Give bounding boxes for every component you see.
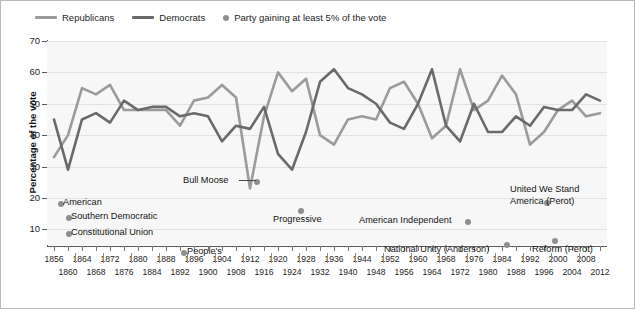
annotation-leader-line-bull-moose [239, 180, 256, 181]
x-label-separator [495, 253, 496, 263]
x-tick-mark-1944 [362, 246, 363, 251]
line-series-republicans [54, 69, 600, 188]
x-tick-mark-1856 [54, 246, 55, 251]
x-tick-mark-1984 [502, 246, 503, 251]
annotation-line: United We Stand [510, 184, 579, 196]
x-tick-mark-1988 [516, 246, 517, 251]
annotation-line: America (Perot) [510, 196, 579, 208]
x-label-separator [439, 253, 440, 263]
x-label-separator [103, 253, 104, 263]
y-tick-label-20: 20 [14, 192, 40, 203]
x-label-separator [299, 253, 300, 263]
x-tick-mark-1940 [348, 246, 349, 251]
annotation-label-american: American [63, 197, 102, 207]
x-tick-mark-1948 [376, 246, 377, 251]
x-tick-mark-1868 [96, 246, 97, 251]
x-tick-mark-2012 [600, 246, 601, 251]
x-tick-mark-1884 [152, 246, 153, 251]
annotation-label-constitutional-union: Constitutional Union [71, 227, 153, 237]
x-label-separator [75, 253, 76, 263]
annotation-label-bull-moose: Bull Moose [183, 175, 228, 185]
annotation-label-american-independent: American Independent [359, 215, 451, 225]
x-tick-mark-1908 [236, 246, 237, 251]
annotation-label-reform-perot: Reform (Perot) [532, 244, 593, 254]
legend-item-republicans: Republicans [35, 12, 114, 23]
x-tick-mark-1992 [530, 246, 531, 251]
chart-figure: Republicans Democrats Party gaining at l… [0, 0, 635, 309]
x-label-separator [523, 253, 524, 263]
x-label-separator [467, 253, 468, 263]
dot-swatch-thirdparty-icon [223, 15, 229, 21]
y-tick-label-50: 50 [14, 98, 40, 109]
x-label-separator [383, 253, 384, 263]
line-swatch-democrats-icon [132, 16, 154, 19]
y-tick-label-30: 30 [14, 161, 40, 172]
y-tick-label-10: 10 [14, 223, 40, 234]
x-label-separator [243, 253, 244, 263]
annotation-dot-american-independent [465, 219, 471, 225]
x-tick-mark-1932 [320, 246, 321, 251]
line-swatch-republicans-icon [35, 16, 57, 19]
annotation-label-national-unity-anderson: National Unity (Anderson) [384, 244, 489, 254]
legend-label-democrats: Democrats [159, 12, 205, 23]
legend-item-democrats: Democrats [132, 12, 205, 23]
legend-label-thirdparty: Party gaining at least 5% of the vote [234, 12, 386, 23]
x-tick-mark-1888 [166, 246, 167, 251]
x-tick-mark-1924 [292, 246, 293, 251]
x-tick-mark-1880 [138, 246, 139, 251]
chart-legend: Republicans Democrats Party gaining at l… [35, 12, 386, 23]
x-tick-mark-1904 [222, 246, 223, 251]
x-label-separator [327, 253, 328, 263]
annotation-label-progressive: Progressive [273, 214, 322, 224]
x-tick-mark-1936 [334, 246, 335, 251]
x-label-separator [355, 253, 356, 263]
x-axis-line [47, 246, 607, 247]
x-tick-label-2012: 2012 [582, 267, 618, 277]
x-label-separator [159, 253, 160, 263]
x-label-separator [271, 253, 272, 263]
annotation-label-southern-democratic: Southern Democratic [71, 211, 157, 221]
x-label-separator [551, 253, 552, 263]
x-tick-mark-1912 [250, 246, 251, 251]
x-tick-mark-1876 [124, 246, 125, 251]
annotation-label-people-s: People's [187, 246, 222, 256]
x-tick-mark-1920 [278, 246, 279, 251]
y-tick-label-60: 60 [14, 66, 40, 77]
x-tick-mark-1864 [82, 246, 83, 251]
x-tick-mark-1860 [68, 246, 69, 251]
legend-item-thirdparty: Party gaining at least 5% of the vote [223, 12, 386, 23]
x-tick-mark-1928 [306, 246, 307, 251]
x-tick-label-2008: 2008 [568, 254, 604, 264]
annotation-label-united-we-stand-america-perot: United We StandAmerica (Perot) [510, 184, 579, 207]
x-label-separator [411, 253, 412, 263]
legend-label-republicans: Republicans [62, 12, 114, 23]
x-label-separator [579, 253, 580, 263]
x-label-separator [131, 253, 132, 263]
line-series-democrats [54, 69, 600, 169]
y-tick-label-40: 40 [14, 129, 40, 140]
annotation-dot-national-unity-anderson [504, 242, 510, 248]
y-tick-label-70: 70 [14, 35, 40, 46]
x-tick-mark-1872 [110, 246, 111, 251]
x-tick-mark-1916 [264, 246, 265, 251]
